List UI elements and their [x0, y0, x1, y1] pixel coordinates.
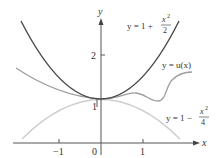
lower-label-den: 4: [201, 118, 205, 127]
x-tick-label-0: 0: [92, 146, 97, 157]
upper-label-den: 2: [163, 26, 167, 35]
x-axis-arrow-icon: [193, 141, 200, 146]
lower-label-prefix: y = 1 −: [166, 113, 192, 123]
upper-label-prefix: y = 1 +: [127, 21, 153, 31]
lower-curve-label: y = 1 − x 2 4: [166, 105, 209, 127]
y-tick-label-1: 1: [92, 101, 97, 112]
y-axis-label: y: [97, 6, 103, 17]
x-axis-label: x: [201, 137, 207, 148]
curve-u: [16, 68, 192, 101]
curve-upper-bound: [21, 21, 179, 99]
y-tick-label-2: 2: [91, 50, 96, 61]
x-tick-label-neg1: −1: [53, 146, 64, 157]
graph-canvas: −1 0 1 2 1 y x y = 1 + x 2 2 y = u(x) y …: [0, 0, 218, 158]
x-tick-label-1: 1: [140, 146, 145, 157]
lower-label-sup: 2: [205, 105, 208, 111]
y-axis-arrow-icon: [99, 18, 104, 25]
upper-label-sup: 2: [167, 13, 170, 19]
upper-label-num: x: [161, 15, 166, 24]
u-curve-label: y = u(x): [162, 60, 191, 70]
upper-curve-label: y = 1 + x 2 2: [127, 13, 171, 35]
lower-label-num: x: [199, 107, 204, 116]
